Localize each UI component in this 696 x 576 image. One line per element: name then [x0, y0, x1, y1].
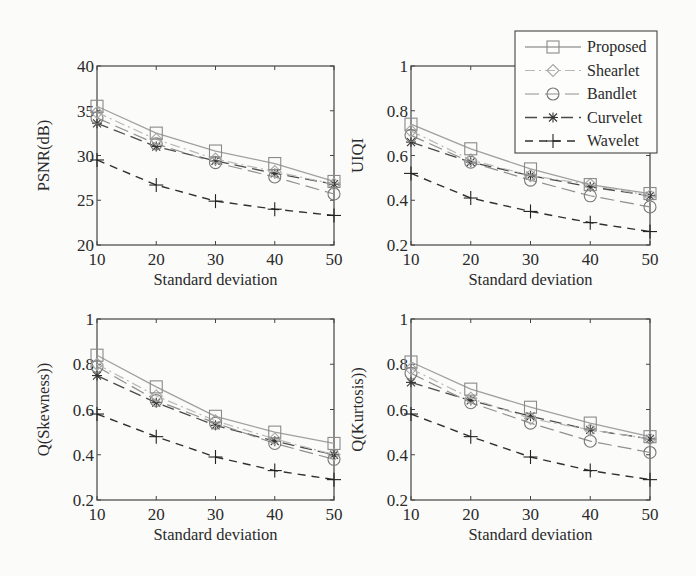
series-line-proposed — [411, 362, 650, 437]
series-line-shearlet — [97, 113, 334, 185]
x-tick-label: 50 — [642, 250, 659, 269]
y-tick-label: 40 — [77, 57, 94, 76]
skewness-plot: 10203040500.20.40.60.81Standard deviatio… — [34, 310, 343, 544]
y-tick-label: 0.6 — [387, 401, 408, 420]
legend-label-wavelet: Wavelet — [587, 132, 640, 149]
x-tick-label: 40 — [582, 250, 599, 269]
legend-label-bandlet: Bandlet — [587, 85, 637, 102]
y-tick-label: 0.4 — [387, 191, 409, 210]
y-tick-label: 25 — [77, 191, 94, 210]
x-tick-label: 30 — [522, 505, 539, 524]
x-tick-label: 30 — [207, 505, 224, 524]
y-tick-label: 1 — [400, 57, 409, 76]
axes-box — [97, 66, 334, 245]
legend: ProposedShearletBandletCurveletWavelet — [515, 31, 657, 153]
y-tick-label: 0.4 — [387, 446, 409, 465]
series-line-proposed — [97, 106, 334, 181]
axes-box — [97, 319, 334, 500]
y-axis-title: Q(Skewness)) — [34, 363, 53, 456]
x-axis-title: Standard deviation — [153, 525, 277, 544]
y-tick-label: 1 — [400, 310, 409, 329]
x-tick-label: 50 — [326, 505, 343, 524]
legend-label-proposed: Proposed — [587, 38, 647, 56]
x-tick-label: 40 — [266, 250, 283, 269]
x-tick-label: 20 — [462, 505, 479, 524]
x-tick-label: 50 — [326, 250, 343, 269]
x-tick-label: 50 — [642, 505, 659, 524]
y-axis-title: PSNR(dB) — [34, 120, 53, 192]
y-tick-label: 0.2 — [387, 236, 408, 255]
legend-label-shearlet: Shearlet — [587, 62, 640, 79]
y-tick-label: 0.4 — [73, 446, 95, 465]
x-tick-label: 40 — [582, 505, 599, 524]
legend-label-curvelet: Curvelet — [587, 109, 643, 126]
x-axis-title: Standard deviation — [153, 270, 277, 289]
y-tick-label: 0.2 — [73, 491, 94, 510]
x-axis-title: Standard deviation — [468, 525, 592, 544]
x-tick-label: 20 — [148, 250, 165, 269]
x-tick-label: 20 — [148, 505, 165, 524]
x-axis-title: Standard deviation — [468, 270, 592, 289]
y-axis-title: Q(Kurtosis)) — [348, 367, 367, 451]
y-tick-label: 0.2 — [387, 491, 408, 510]
y-tick-label: 20 — [77, 236, 94, 255]
x-tick-label: 30 — [522, 250, 539, 269]
y-tick-label: 30 — [77, 147, 94, 166]
axes-box — [411, 319, 650, 500]
y-axis-title: UIQI — [348, 138, 367, 173]
y-tick-label: 0.6 — [387, 147, 408, 166]
series-line-bandlet — [97, 367, 334, 460]
kurtosis-plot: 10203040500.20.40.60.81Standard deviatio… — [348, 310, 659, 544]
psnr-plot: 10203040502025303540Standard deviationPS… — [34, 57, 343, 289]
series-line-shearlet — [97, 364, 334, 455]
series-line-curvelet — [411, 382, 650, 439]
x-tick-label: 40 — [266, 505, 283, 524]
x-tick-label: 20 — [462, 250, 479, 269]
y-tick-label: 1 — [86, 310, 95, 329]
figure-canvas: 10203040502025303540Standard deviationPS… — [0, 0, 696, 576]
y-tick-label: 0.6 — [73, 401, 94, 420]
x-tick-label: 30 — [207, 250, 224, 269]
